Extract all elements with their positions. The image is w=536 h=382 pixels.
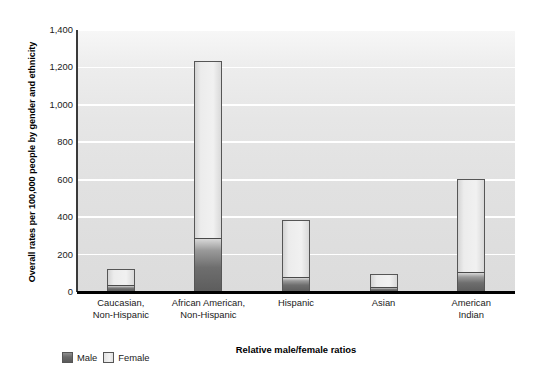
bar-group[interactable] xyxy=(370,30,398,292)
bar-segment-female[interactable] xyxy=(370,274,398,287)
legend-label: Female xyxy=(118,352,149,363)
y-axis-tick-label: 0 xyxy=(5,287,73,297)
plot-area xyxy=(77,30,515,292)
y-axis-tick-label: 600 xyxy=(5,175,73,185)
bar-group[interactable] xyxy=(282,30,310,292)
bar-segment-male[interactable] xyxy=(282,277,310,292)
category-label-line: Indian xyxy=(411,309,531,321)
y-axis-tick-label: 1,400 xyxy=(5,25,73,35)
legend-swatch-male xyxy=(62,352,73,363)
legend-swatch-female xyxy=(103,352,114,363)
legend-item-female[interactable]: Female xyxy=(103,352,149,363)
bar-segment-female[interactable] xyxy=(107,269,135,286)
bar-segment-female[interactable] xyxy=(282,220,310,277)
category-label-line: Non-Hispanic xyxy=(148,309,268,321)
bar-chart-figure: Overall rates per 100,000 people by gend… xyxy=(0,0,536,382)
bar-segment-female[interactable] xyxy=(457,179,485,273)
y-axis-tick-label: 1,000 xyxy=(5,100,73,110)
x-axis-category-label: AmericanIndian xyxy=(411,297,531,320)
bar-segment-female[interactable] xyxy=(194,61,222,238)
category-label-line: American xyxy=(411,297,531,309)
y-axis-tick-label: 800 xyxy=(5,137,73,147)
y-axis-line xyxy=(76,30,78,292)
y-axis-tick-label: 400 xyxy=(5,212,73,222)
bar-segment-male[interactable] xyxy=(457,272,485,292)
bar-group[interactable] xyxy=(457,30,485,292)
x-axis-line xyxy=(77,291,515,294)
legend-label: Male xyxy=(77,352,97,363)
y-axis-tick-labels: 02004006008001,0001,2001,400 xyxy=(3,0,73,382)
y-axis-tick-label: 200 xyxy=(5,250,73,260)
legend-item-male[interactable]: Male xyxy=(62,352,97,363)
chart-legend: MaleFemale xyxy=(62,352,150,363)
y-axis-tick-label: 1,200 xyxy=(5,62,73,72)
bar-group[interactable] xyxy=(194,30,222,292)
bar-group[interactable] xyxy=(107,30,135,292)
bar-segment-male[interactable] xyxy=(194,238,222,292)
